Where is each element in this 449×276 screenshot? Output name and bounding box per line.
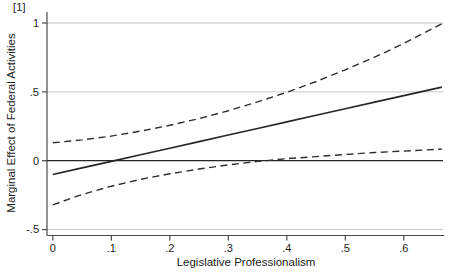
y-tick-label: .5 [30, 86, 39, 98]
x-tick-label: .6 [399, 242, 408, 254]
upper-confidence-bound-line [53, 24, 442, 143]
x-axis-label: Legislative Professionalism [177, 256, 316, 268]
x-tick-label: .5 [341, 242, 350, 254]
x-tick-label: .1 [107, 242, 116, 254]
marginal-effect-figure: [1] Marginal Effect of Federal Activitie… [0, 0, 449, 276]
line-chart: 1.50-.50.1.2.3.4.5.6 [0, 0, 449, 276]
y-tick-label: 1 [33, 17, 39, 29]
x-tick-label: .3 [224, 242, 233, 254]
x-tick-label: 0 [50, 242, 56, 254]
marginal-effect-line [53, 87, 442, 174]
x-tick-label: .4 [282, 242, 291, 254]
x-tick-label: .2 [165, 242, 174, 254]
y-tick-label: -.5 [26, 223, 39, 235]
y-tick-label: 0 [33, 155, 39, 167]
lower-confidence-bound-line [53, 149, 442, 205]
